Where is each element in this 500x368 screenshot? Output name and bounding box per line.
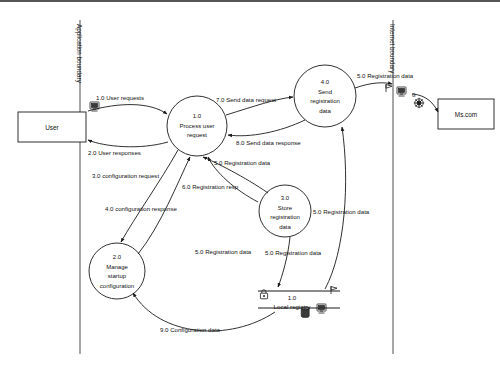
label-flow-5-proc: 5.0 Registration data xyxy=(214,159,271,166)
label-flow-5-lower: 5.0 Registration data xyxy=(265,249,322,256)
edge-user-responses xyxy=(88,140,168,147)
datastore-label: Local registry xyxy=(274,303,312,310)
process-2-number: 2.0 xyxy=(113,254,122,260)
label-flow-5-right: 5.0 Registration data xyxy=(313,208,370,215)
process-2-line-3: configuration xyxy=(100,283,134,289)
process-2-line-2: startup xyxy=(108,273,127,279)
data-flow-diagram: Application boundary Internet boundary U… xyxy=(0,2,500,368)
label-flow-5-store: 5.0 Registration data xyxy=(195,248,252,255)
external-entity-ms-com-label: Ms.com xyxy=(455,111,477,118)
label-flow-8: 8.0 Send data response xyxy=(236,139,301,146)
edge-send-data-response xyxy=(228,120,305,136)
application-boundary-label: Application boundary xyxy=(75,24,83,84)
label-flow-4: 4.0 configuration response xyxy=(105,205,177,212)
process-manage-startup-configuration[interactable]: 2.0 Manage startup configuration xyxy=(89,243,145,299)
internet-boundary-label: Internet boundary xyxy=(388,24,396,74)
process-1-number: 1.0 xyxy=(193,113,202,119)
external-entity-user-label: User xyxy=(45,124,59,131)
label-flow-7: 7.0 Send data request xyxy=(216,96,276,103)
edge-registration-data-to-store xyxy=(278,237,290,287)
datastore-number: 1.0 xyxy=(288,294,297,301)
external-entity-user[interactable]: User xyxy=(18,112,86,142)
label-flow-9: 9.0 Configuration data xyxy=(160,326,221,333)
label-flow-1: 1.0 User requests xyxy=(96,94,144,101)
process-store-registration-data[interactable]: 3.0 Store registration data xyxy=(259,185,311,237)
process-3-number: 3.0 xyxy=(281,195,290,201)
label-flow-5-top: 5.0 Registration data xyxy=(357,72,414,79)
label-flow-6: 6.0 Registration resp xyxy=(182,183,239,190)
monitor-icon xyxy=(397,87,406,96)
datastore-local-registry[interactable]: 1.0 Local registry xyxy=(258,291,340,310)
edge-registration-data-internet xyxy=(355,83,392,88)
process-4-line-1: Send xyxy=(318,89,332,95)
application-boundary: Application boundary xyxy=(75,20,83,354)
label-flow-2: 2.0 User responses xyxy=(88,149,141,156)
g-letter-label: G xyxy=(412,93,416,98)
process-2-line-1: Manage xyxy=(106,264,128,270)
flag-icon xyxy=(386,84,392,92)
globe-icon xyxy=(414,98,424,108)
edge-user-requests xyxy=(88,105,167,114)
external-entity-ms-com[interactable]: Ms.com xyxy=(438,99,494,129)
process-send-registration-data[interactable]: 4.0 Send registration data xyxy=(294,65,356,127)
process-3-line-2: registration xyxy=(270,214,300,220)
flag-icon xyxy=(331,286,337,294)
monitor-icon xyxy=(317,304,326,313)
label-flow-3: 3.0 configuration request xyxy=(92,172,159,179)
edge-configuration-request xyxy=(121,150,178,242)
process-4-number: 4.0 xyxy=(321,79,330,85)
process-process-user-request[interactable]: 1.0 Process user request xyxy=(167,96,227,156)
process-1-line-2: request xyxy=(187,132,207,138)
process-3-line-3: data xyxy=(279,224,291,230)
diagram-canvas: Application boundary Internet boundary U… xyxy=(0,0,500,368)
process-4-line-2: registration xyxy=(310,98,340,104)
internet-boundary: Internet boundary xyxy=(388,20,396,354)
process-4-line-3: data xyxy=(319,108,331,114)
process-1-line-1: Process user xyxy=(179,123,214,129)
process-3-line-1: Store xyxy=(278,205,293,211)
